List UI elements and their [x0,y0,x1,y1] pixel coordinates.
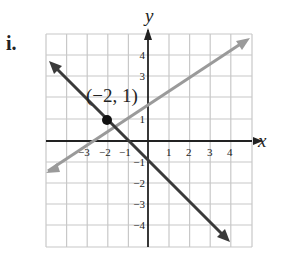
svg-text:−3: −3 [133,198,145,210]
y-axis-label: y [143,5,154,26]
svg-text:−4: −4 [133,219,145,231]
line-light [48,43,242,171]
svg-text:−2: −2 [99,146,111,158]
svg-text:3: 3 [140,70,146,82]
svg-text:1: 1 [166,146,172,158]
svg-text:−2: −2 [133,177,145,189]
axes [46,30,252,247]
svg-text:2: 2 [186,146,192,158]
point-label: (−2, 1) [86,85,138,107]
x-axis-label: x [257,130,267,151]
svg-text:−1: −1 [133,156,145,168]
svg-text:3: 3 [207,146,213,158]
svg-text:4: 4 [140,49,146,61]
intersection-point [102,115,112,125]
x-tick-labels: −3 −2 −1 1 2 3 4 [78,146,233,158]
svg-text:4: 4 [227,146,233,158]
coordinate-plane: i. x y −3 −2 −1 1 2 3 4 [0,0,281,259]
problem-label: i. [6,32,17,54]
svg-text:−1: −1 [119,146,131,158]
line-light-arrow-icon [236,38,250,50]
svg-text:1: 1 [140,113,146,125]
